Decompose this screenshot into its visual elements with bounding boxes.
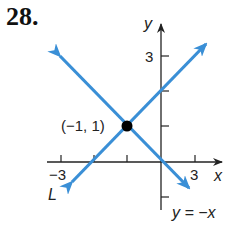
y-axis-label: y xyxy=(143,15,153,32)
x-tick-label-3: 3 xyxy=(190,166,198,183)
coordinate-plane: y 3 −3 3 x (−1, 1) L y = −x xyxy=(0,0,246,229)
line-L xyxy=(72,44,206,182)
point-label: (−1, 1) xyxy=(61,117,105,134)
x-axis xyxy=(47,155,222,162)
x-tick-label-neg3: −3 xyxy=(49,166,66,183)
intersection-point xyxy=(122,121,133,132)
x-axis-label: x xyxy=(213,167,223,184)
line-neg-x-label: y = −x xyxy=(171,204,217,221)
line-L-label: L xyxy=(48,186,57,203)
y-axis xyxy=(161,24,169,210)
y-tick-label-3: 3 xyxy=(145,48,153,65)
